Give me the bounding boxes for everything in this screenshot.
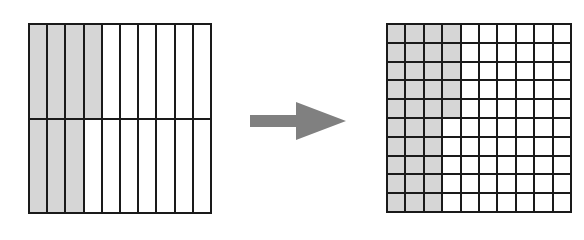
empty-cell bbox=[498, 63, 514, 80]
empty-cell bbox=[480, 119, 496, 136]
empty-cell bbox=[554, 119, 570, 136]
shaded-cell bbox=[66, 120, 82, 213]
empty-cell bbox=[121, 120, 137, 213]
empty-cell bbox=[554, 157, 570, 174]
shaded-cell bbox=[406, 138, 422, 155]
empty-cell bbox=[498, 157, 514, 174]
empty-cell bbox=[498, 25, 514, 42]
empty-cell bbox=[480, 194, 496, 211]
empty-cell bbox=[103, 25, 119, 118]
shaded-cell bbox=[388, 194, 404, 211]
shaded-cell bbox=[443, 81, 459, 98]
empty-cell bbox=[462, 175, 478, 192]
empty-cell bbox=[554, 138, 570, 155]
shaded-cell bbox=[406, 44, 422, 61]
empty-cell bbox=[462, 44, 478, 61]
empty-cell bbox=[480, 81, 496, 98]
empty-cell bbox=[554, 25, 570, 42]
empty-cell bbox=[535, 100, 551, 117]
empty-cell bbox=[554, 175, 570, 192]
empty-cell bbox=[535, 175, 551, 192]
shaded-cell bbox=[443, 63, 459, 80]
empty-cell bbox=[480, 44, 496, 61]
empty-cell bbox=[480, 138, 496, 155]
empty-cell bbox=[480, 63, 496, 80]
empty-cell bbox=[443, 157, 459, 174]
empty-cell bbox=[517, 81, 533, 98]
shaded-cell bbox=[388, 25, 404, 42]
empty-cell bbox=[517, 138, 533, 155]
empty-cell bbox=[462, 138, 478, 155]
empty-cell bbox=[462, 63, 478, 80]
shaded-cell bbox=[406, 175, 422, 192]
empty-cell bbox=[443, 119, 459, 136]
shaded-cell bbox=[406, 100, 422, 117]
arrow-right-icon bbox=[248, 100, 348, 142]
empty-cell bbox=[176, 120, 192, 213]
empty-cell bbox=[535, 119, 551, 136]
shaded-cell bbox=[425, 175, 441, 192]
empty-cell bbox=[498, 138, 514, 155]
empty-cell bbox=[535, 157, 551, 174]
shaded-cell bbox=[388, 175, 404, 192]
empty-cell bbox=[462, 194, 478, 211]
empty-cell bbox=[517, 175, 533, 192]
shaded-cell bbox=[66, 25, 82, 118]
shaded-cell bbox=[48, 120, 64, 213]
shaded-cell bbox=[425, 81, 441, 98]
empty-cell bbox=[443, 194, 459, 211]
empty-cell bbox=[535, 25, 551, 42]
empty-cell bbox=[85, 120, 101, 213]
shaded-cell bbox=[425, 157, 441, 174]
empty-cell bbox=[535, 194, 551, 211]
empty-cell bbox=[517, 119, 533, 136]
empty-cell bbox=[535, 138, 551, 155]
empty-cell bbox=[103, 120, 119, 213]
empty-cell bbox=[554, 44, 570, 61]
shaded-cell bbox=[388, 44, 404, 61]
empty-cell bbox=[554, 81, 570, 98]
empty-cell bbox=[121, 25, 137, 118]
empty-cell bbox=[498, 81, 514, 98]
empty-cell bbox=[462, 25, 478, 42]
empty-cell bbox=[462, 100, 478, 117]
empty-cell bbox=[554, 100, 570, 117]
shaded-cell bbox=[443, 100, 459, 117]
shaded-cell bbox=[30, 25, 46, 118]
empty-cell bbox=[462, 157, 478, 174]
shaded-cell bbox=[406, 25, 422, 42]
empty-cell bbox=[194, 120, 210, 213]
empty-cell bbox=[498, 100, 514, 117]
shaded-cell bbox=[425, 100, 441, 117]
empty-cell bbox=[517, 157, 533, 174]
empty-cell bbox=[535, 81, 551, 98]
empty-cell bbox=[517, 25, 533, 42]
empty-cell bbox=[554, 194, 570, 211]
right-fraction-grid bbox=[386, 23, 572, 213]
shaded-cell bbox=[388, 100, 404, 117]
empty-cell bbox=[498, 194, 514, 211]
shaded-cell bbox=[388, 138, 404, 155]
empty-cell bbox=[443, 175, 459, 192]
shaded-cell bbox=[425, 119, 441, 136]
empty-cell bbox=[517, 44, 533, 61]
empty-cell bbox=[498, 44, 514, 61]
shaded-cell bbox=[406, 157, 422, 174]
empty-cell bbox=[462, 119, 478, 136]
shaded-cell bbox=[443, 25, 459, 42]
shaded-cell bbox=[425, 63, 441, 80]
empty-cell bbox=[480, 100, 496, 117]
empty-cell bbox=[517, 100, 533, 117]
empty-cell bbox=[443, 138, 459, 155]
shaded-cell bbox=[406, 119, 422, 136]
left-fraction-grid bbox=[28, 23, 212, 214]
empty-cell bbox=[480, 157, 496, 174]
shaded-cell bbox=[30, 120, 46, 213]
shaded-cell bbox=[48, 25, 64, 118]
empty-cell bbox=[517, 63, 533, 80]
empty-cell bbox=[480, 175, 496, 192]
shaded-cell bbox=[406, 81, 422, 98]
shaded-cell bbox=[406, 63, 422, 80]
empty-cell bbox=[517, 194, 533, 211]
empty-cell bbox=[157, 25, 173, 118]
